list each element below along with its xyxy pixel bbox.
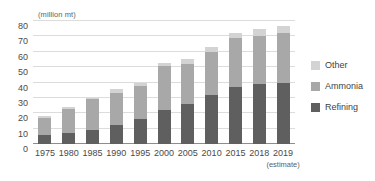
- x-tick-sublabel-2019: (estimate): [266, 160, 299, 169]
- bar-group-1980[interactable]: [62, 21, 75, 144]
- x-tick-label-1985: 1985: [83, 148, 103, 158]
- bar-group-2010[interactable]: [205, 21, 218, 144]
- bar-segment-refining-2010[interactable]: [205, 95, 218, 144]
- bars-layer: [33, 21, 295, 144]
- legend-swatch-ammonia: [311, 82, 320, 91]
- bar-segment-ammonia-1980[interactable]: [62, 109, 75, 134]
- x-tick-label-2010: 2010: [202, 148, 222, 158]
- bar-segment-refining-2005[interactable]: [181, 104, 194, 144]
- bar-group-1985[interactable]: [86, 21, 99, 144]
- bar-segment-other-2019[interactable]: [277, 26, 290, 34]
- x-tick-label-1995: 1995: [130, 148, 150, 158]
- bar-segment-refining-2018[interactable]: [253, 84, 266, 144]
- stacked-bar-chart: (million mt) 80706050403020100 197519801…: [0, 0, 375, 181]
- bar-segment-other-2018[interactable]: [253, 29, 266, 37]
- legend-swatch-other: [311, 61, 320, 70]
- bar-segment-refining-2000[interactable]: [158, 110, 171, 144]
- bar-segment-ammonia-2018[interactable]: [253, 36, 266, 84]
- chart-legend: OtherAmmoniaRefining: [311, 57, 375, 120]
- bar-segment-ammonia-2000[interactable]: [158, 66, 171, 111]
- legend-label-other: Other: [325, 60, 348, 70]
- bar-group-2000[interactable]: [158, 21, 171, 144]
- bar-group-2018[interactable]: [253, 21, 266, 144]
- bar-group-2005[interactable]: [181, 21, 194, 144]
- legend-item-refining[interactable]: Refining: [311, 99, 375, 115]
- x-tick-label-1980: 1980: [59, 148, 79, 158]
- bar-segment-ammonia-2005[interactable]: [181, 64, 194, 104]
- legend-label-refining: Refining: [325, 102, 358, 112]
- x-tick-label-2000: 2000: [154, 148, 174, 158]
- bar-segment-ammonia-1990[interactable]: [110, 93, 123, 125]
- x-tick-label-1975: 1975: [35, 148, 55, 158]
- bar-group-2019[interactable]: [277, 21, 290, 144]
- legend-swatch-refining: [311, 103, 320, 112]
- bar-segment-refining-1975[interactable]: [38, 135, 51, 144]
- bar-segment-ammonia-1985[interactable]: [86, 99, 99, 130]
- x-tick-label-2019: 2019: [273, 148, 293, 158]
- bar-segment-refining-1980[interactable]: [62, 133, 75, 144]
- bar-group-1995[interactable]: [134, 21, 147, 144]
- bar-group-2015[interactable]: [229, 21, 242, 144]
- bar-segment-refining-2019[interactable]: [277, 83, 290, 145]
- x-tick-label-2005: 2005: [178, 148, 198, 158]
- bar-segment-ammonia-2019[interactable]: [277, 33, 290, 82]
- bar-segment-ammonia-2015[interactable]: [229, 38, 242, 87]
- bar-segment-refining-1990[interactable]: [110, 125, 123, 144]
- bar-segment-refining-1985[interactable]: [86, 130, 99, 144]
- x-axis-tick-labels: 1975198019851990199520002005201020152018…: [33, 148, 295, 178]
- legend-label-ammonia: Ammonia: [325, 81, 363, 91]
- legend-item-other[interactable]: Other: [311, 57, 375, 73]
- x-tick-label-1990: 1990: [106, 148, 126, 158]
- x-tick-label-2018: 2018: [249, 148, 269, 158]
- bar-segment-ammonia-2010[interactable]: [205, 52, 218, 95]
- bar-group-1975[interactable]: [38, 21, 51, 144]
- bar-group-1990[interactable]: [110, 21, 123, 144]
- bar-segment-refining-2015[interactable]: [229, 87, 242, 144]
- bar-segment-refining-1995[interactable]: [134, 119, 147, 144]
- x-tick-label-2015: 2015: [225, 148, 245, 158]
- y-axis-tick-labels: 80706050403020100: [0, 21, 31, 144]
- bar-segment-ammonia-1995[interactable]: [134, 86, 147, 118]
- y-axis-unit-label: (million mt): [38, 10, 76, 19]
- legend-item-ammonia[interactable]: Ammonia: [311, 78, 375, 94]
- bar-segment-ammonia-1975[interactable]: [38, 118, 51, 135]
